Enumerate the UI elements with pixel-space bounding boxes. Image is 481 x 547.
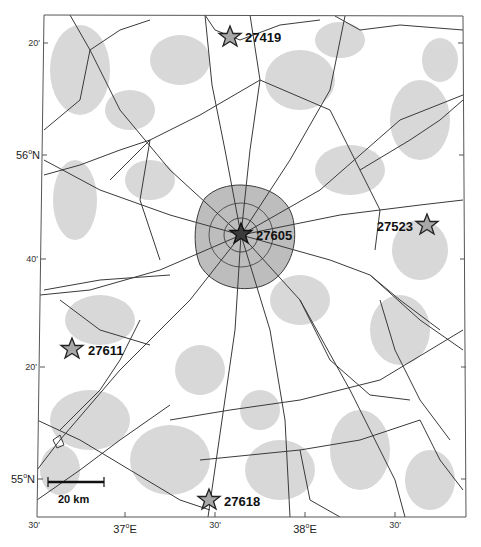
lat-label-20-north: 20' (28, 38, 40, 48)
lon-label-38e: 38oE (293, 522, 317, 535)
lat-label-55n: 55oN (11, 472, 35, 485)
lon-label-30-east: 30' (389, 520, 401, 530)
longitude-labels: 30' 37oE 30' 38oE 30' (28, 520, 401, 535)
lat-label-40: 40' (26, 254, 38, 264)
station-label: 27611 (88, 343, 123, 358)
scale-bar-label: 20 km (58, 493, 89, 505)
lon-label-30-west: 30' (28, 520, 40, 530)
station-label: 27605 (256, 228, 292, 243)
lon-label-37e: 37oE (113, 522, 137, 535)
station-label: 27523 (377, 219, 413, 234)
station-label: 27618 (224, 494, 260, 509)
map-canvas: 20' 56oN 40' 20' 55oN 30' 37oE 30' 38oE … (0, 0, 481, 547)
lat-label-20-south: 20' (25, 362, 37, 372)
lat-label-56n: 56oN (16, 148, 40, 161)
latitude-labels: 20' 56oN 40' 20' 55oN (11, 38, 40, 485)
map-area (37, 15, 466, 517)
lon-label-30-mid: 30' (209, 520, 221, 530)
station-label: 27419 (245, 30, 281, 45)
